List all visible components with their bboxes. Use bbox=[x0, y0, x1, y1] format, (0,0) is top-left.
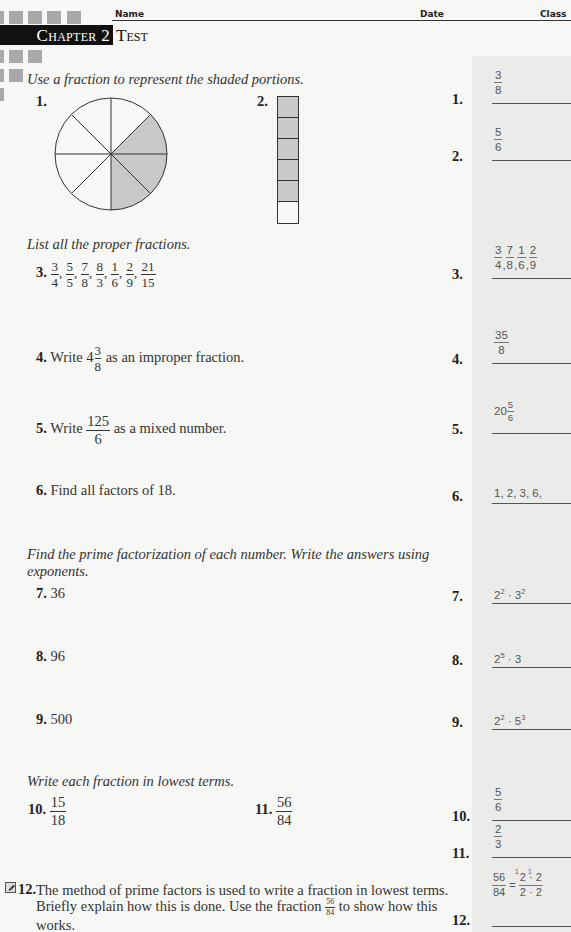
q6: 6. Find all factors of 18. bbox=[36, 482, 176, 499]
answer-line[interactable] bbox=[492, 103, 571, 104]
answer-line[interactable] bbox=[492, 820, 571, 821]
q3: 3. 34, 55, 78, 83, 16, 29, 2115 bbox=[36, 260, 156, 289]
q3-fraction: 34 bbox=[51, 260, 60, 289]
instruction-proper: List all the proper fractions. bbox=[27, 236, 190, 253]
instruction-shaded: Use a fraction to represent the shaded p… bbox=[27, 71, 304, 88]
answer-line[interactable] bbox=[492, 160, 571, 161]
bar-figure-icon bbox=[277, 96, 299, 224]
name-label: Name bbox=[115, 9, 144, 19]
q8: 8. 96 bbox=[36, 648, 65, 665]
answer-line[interactable] bbox=[492, 857, 571, 858]
q9-number: 9. bbox=[36, 711, 47, 727]
q11-number: 11. bbox=[255, 801, 272, 817]
class-label: Class bbox=[540, 9, 566, 19]
date-label: Date bbox=[420, 9, 444, 19]
q10: 10. 1518 bbox=[28, 795, 66, 827]
q6-number: 6. bbox=[36, 482, 47, 498]
answer-line[interactable] bbox=[492, 278, 571, 279]
instruction-lowest: Write each fraction in lowest terms. bbox=[27, 773, 234, 790]
instruction-prime-2: exponents. bbox=[27, 563, 89, 580]
q2-number: 2. bbox=[257, 93, 268, 110]
chapter-label: Chapter 2 bbox=[0, 25, 113, 45]
q12-number: 12. bbox=[18, 881, 36, 898]
q3-fraction: 2115 bbox=[141, 260, 156, 289]
q5-number: 5. bbox=[36, 420, 47, 436]
answer-line[interactable] bbox=[492, 433, 571, 434]
header-rule bbox=[112, 20, 571, 21]
q3-fraction: 16 bbox=[111, 260, 120, 289]
q10-number: 10. bbox=[28, 801, 46, 817]
q3-number: 3. bbox=[36, 264, 47, 280]
q4-number: 4. bbox=[36, 349, 47, 365]
q7: 7. 36 bbox=[36, 585, 65, 602]
answer-line[interactable] bbox=[492, 667, 571, 668]
q4: 4. Write 438 as an improper fraction. bbox=[36, 344, 244, 373]
q8-number: 8. bbox=[36, 648, 47, 664]
answer-line[interactable] bbox=[492, 729, 571, 730]
answer-line[interactable] bbox=[492, 603, 571, 604]
instruction-prime-1: Find the prime factorization of each num… bbox=[27, 546, 429, 563]
answer-line[interactable] bbox=[492, 503, 571, 504]
answer-line[interactable] bbox=[492, 926, 571, 927]
q1-number: 1. bbox=[36, 93, 47, 110]
q3-fraction: 78 bbox=[81, 260, 90, 289]
answer-line[interactable] bbox=[492, 363, 571, 364]
q3-fraction: 55 bbox=[66, 260, 75, 289]
q12-text: The method of prime factors is used to w… bbox=[36, 882, 456, 932]
q3-fraction: 83 bbox=[96, 260, 105, 289]
q9: 9. 500 bbox=[36, 711, 72, 728]
q3-fraction: 29 bbox=[126, 260, 135, 289]
writing-icon bbox=[5, 882, 16, 893]
q5: 5. Write 1256 as a mixed number. bbox=[36, 414, 226, 446]
page-title: Test bbox=[116, 25, 148, 45]
q7-number: 7. bbox=[36, 585, 47, 601]
pie-figure-icon bbox=[52, 95, 170, 213]
q11: 11. 5684 bbox=[255, 795, 292, 827]
